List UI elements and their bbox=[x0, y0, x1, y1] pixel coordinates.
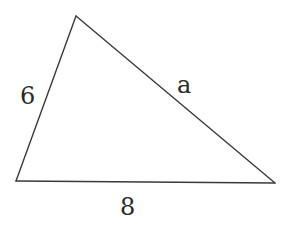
side-right bbox=[76, 16, 275, 183]
triangle-diagram: 6 a 8 bbox=[0, 0, 282, 228]
label-side-left: 6 bbox=[20, 82, 35, 110]
label-side-right: a bbox=[177, 71, 191, 99]
side-bottom bbox=[16, 181, 275, 183]
label-side-bottom: 8 bbox=[120, 193, 135, 221]
